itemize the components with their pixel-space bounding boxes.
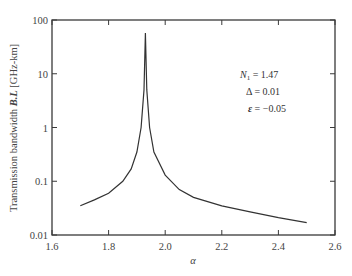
x-axis-label: α — [190, 255, 196, 266]
annotation-delta: Δ = 0.01 — [246, 86, 280, 97]
axis-ticks — [52, 20, 335, 235]
y-axis-label: Transmission bandwidth B.L [GHz-km] — [8, 44, 19, 212]
x-tick-labels: 1.61.82.02.22.42.6 — [45, 241, 341, 252]
x-tick-label: 2.6 — [328, 241, 341, 252]
annotation-n1: N1 = 1.47 — [239, 69, 278, 82]
x-tick-label: 1.8 — [102, 241, 115, 252]
x-tick-label: 2.2 — [215, 241, 228, 252]
y-tick-label: 100 — [32, 15, 48, 26]
x-tick-label: 1.6 — [45, 241, 58, 252]
y-tick-label: 0.01 — [30, 230, 48, 241]
chart: 1.61.82.02.22.42.6 0.010.1110100 α Trans… — [0, 0, 352, 276]
x-tick-label: 2.4 — [272, 241, 286, 252]
plot-frame — [52, 20, 335, 235]
y-tick-label: 0.1 — [35, 176, 48, 187]
data-line — [80, 33, 306, 223]
y-tick-labels: 0.010.1110100 — [30, 15, 48, 241]
x-tick-label: 2.0 — [159, 241, 172, 252]
y-tick-label: 1 — [43, 123, 48, 134]
y-tick-label: 10 — [38, 69, 49, 80]
annotation-epsilon: ε = −0.05 — [248, 103, 286, 114]
